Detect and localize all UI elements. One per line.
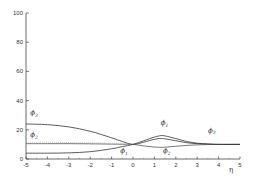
x-tick-label: 2 [174,162,178,168]
axes [26,13,240,159]
x-tick-label: -5 [23,162,29,168]
y-tick-label: 20 [16,127,23,133]
x-ticks: -5-4-3-2-1012345 [23,157,242,169]
y-tick-label: 100 [13,10,24,16]
x-tick-label: -4 [45,162,51,168]
curve-label-phi3: ϕ3 [208,127,216,136]
y-tick-label: 60 [16,68,23,74]
x-axis-title: η [229,166,233,174]
curve-label-phi1: ϕ1 [161,119,169,128]
x-tick-label: 5 [238,162,242,168]
x-tick-label: 0 [131,162,135,168]
y-tick-label: 80 [16,39,23,45]
x-tick-label: -1 [109,162,115,168]
curve-phi1 [26,136,240,154]
curve-label-phi2: ϕ2 [30,131,38,140]
x-tick-label: 3 [196,162,200,168]
y-ticks: 020406080100 [13,10,29,162]
line-chart: 020406080100 -5-4-3-2-1012345 ϕ3ϕ2ϕ1ϕ1ϕ2… [0,0,256,183]
curve-label-phi1: ϕ1 [120,147,128,156]
curve-label-phi2: ϕ2 [163,147,171,156]
x-tick-label: -3 [66,162,72,168]
y-tick-label: 40 [16,98,23,104]
x-tick-label: -2 [88,162,94,168]
curve-labels: ϕ3ϕ2ϕ1ϕ1ϕ2ϕ3 [30,109,215,155]
x-tick-label: 4 [217,162,221,168]
x-tick-label: 1 [153,162,157,168]
curve-label-phi3: ϕ3 [30,109,38,118]
